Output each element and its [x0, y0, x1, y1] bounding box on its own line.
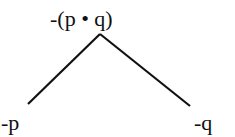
left-branch-label: -p — [1, 112, 19, 134]
right-branch-label: -q — [194, 112, 212, 134]
left-branch-line — [28, 34, 100, 104]
right-branch-line — [100, 34, 190, 106]
